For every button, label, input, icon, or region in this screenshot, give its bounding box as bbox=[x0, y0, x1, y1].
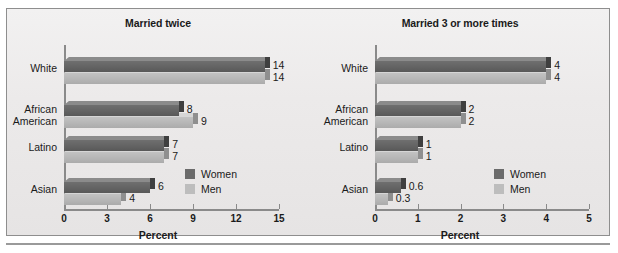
bar-top-face bbox=[64, 136, 169, 140]
x-axis-tick-label: 9 bbox=[181, 213, 205, 224]
chart-married-twice: Married twice 03691215PercentWhite1414Af… bbox=[7, 9, 309, 237]
legend-label-women: Women bbox=[510, 167, 546, 181]
x-axis-tick-label: 5 bbox=[577, 213, 601, 224]
x-axis-line bbox=[64, 209, 279, 211]
figure-root: Married twice 03691215PercentWhite1414Af… bbox=[0, 0, 618, 253]
bar-face bbox=[375, 105, 461, 116]
bar-top-face bbox=[375, 101, 466, 105]
x-axis-tick-label: 2 bbox=[449, 213, 473, 224]
bar-men bbox=[375, 194, 388, 205]
x-axis-tick bbox=[236, 204, 237, 209]
bar-value-label: 1 bbox=[426, 150, 432, 162]
bar-end-cap bbox=[418, 136, 423, 147]
bar-face bbox=[64, 61, 265, 72]
category-label: White bbox=[0, 62, 57, 74]
bar-value-label: 0.3 bbox=[396, 192, 411, 204]
bar-women bbox=[64, 140, 164, 151]
bar-value-label: 6 bbox=[158, 180, 164, 192]
bar-end-cap bbox=[461, 113, 466, 124]
bar-value-label: 0.6 bbox=[409, 180, 424, 192]
bar-face bbox=[375, 182, 401, 193]
bar-value-label: 14 bbox=[273, 71, 285, 83]
chart-panel: Married twice 03691215PercentWhite1414Af… bbox=[6, 8, 610, 236]
x-axis-tick bbox=[193, 204, 194, 209]
bar-women bbox=[375, 61, 546, 72]
bar-value-label: 4 bbox=[554, 71, 560, 83]
legend-label-men: Men bbox=[510, 182, 530, 196]
bar-face bbox=[375, 140, 418, 151]
plot-area: 03691215PercentWhite1414African American… bbox=[7, 9, 309, 237]
bottom-divider-rule bbox=[6, 243, 610, 245]
bar-value-label: 4 bbox=[554, 59, 560, 71]
bar-face bbox=[375, 61, 546, 72]
x-axis-tick-label: 3 bbox=[491, 213, 515, 224]
x-axis-tick-label: 0 bbox=[52, 213, 76, 224]
bar-men bbox=[64, 152, 164, 163]
bar-face bbox=[375, 194, 388, 205]
bar-face bbox=[375, 117, 461, 128]
bar-face bbox=[64, 152, 164, 163]
bar-face bbox=[64, 73, 265, 84]
category-label: White bbox=[298, 62, 368, 74]
category-label: Latino bbox=[298, 141, 368, 153]
category-label: Latino bbox=[0, 141, 57, 153]
chart-married-three-or-more: Married 3 or more times 012345PercentWhi… bbox=[309, 9, 611, 237]
bar-value-label: 1 bbox=[426, 138, 432, 150]
x-axis-title: Percent bbox=[309, 229, 611, 241]
x-axis-tick-label: 12 bbox=[224, 213, 248, 224]
bar-face bbox=[64, 194, 121, 205]
legend-label-men: Men bbox=[201, 182, 221, 196]
bar-end-cap bbox=[150, 178, 155, 189]
bar-end-cap bbox=[546, 69, 551, 80]
bar-value-label: 7 bbox=[172, 150, 178, 162]
legend-swatch-women bbox=[185, 169, 195, 179]
x-axis-tick bbox=[418, 204, 419, 209]
x-axis-tick-label: 4 bbox=[534, 213, 558, 224]
bar-top-face bbox=[375, 57, 551, 61]
category-label: Asian bbox=[0, 183, 57, 195]
x-axis-tick-label: 3 bbox=[95, 213, 119, 224]
category-label: African American bbox=[0, 103, 57, 127]
x-axis-tick-label: 1 bbox=[406, 213, 430, 224]
bar-end-cap bbox=[546, 57, 551, 68]
legend-swatch-men bbox=[494, 184, 504, 194]
bar-end-cap bbox=[193, 113, 198, 124]
bar-women bbox=[64, 61, 265, 72]
bar-face bbox=[64, 182, 150, 193]
x-axis-tick bbox=[279, 204, 280, 209]
bar-end-cap bbox=[461, 101, 466, 112]
bar-top-face bbox=[64, 101, 184, 105]
category-label: Asian bbox=[298, 183, 368, 195]
bar-face bbox=[375, 152, 418, 163]
bar-face bbox=[64, 105, 179, 116]
bar-value-label: 9 bbox=[201, 115, 207, 127]
bar-end-cap bbox=[418, 148, 423, 159]
bar-top-face bbox=[375, 136, 423, 140]
category-label: African American bbox=[298, 103, 368, 127]
bar-women bbox=[64, 182, 150, 193]
x-axis-tick bbox=[503, 204, 504, 209]
bar-women bbox=[64, 105, 179, 116]
x-axis-line bbox=[375, 209, 589, 211]
plot-area: 012345PercentWhite44African American22La… bbox=[309, 9, 611, 237]
legend-swatch-women bbox=[494, 169, 504, 179]
bar-women bbox=[375, 105, 461, 116]
x-axis-tick bbox=[461, 204, 462, 209]
bar-men bbox=[375, 152, 418, 163]
bar-end-cap bbox=[401, 178, 406, 189]
bar-end-cap bbox=[179, 101, 184, 112]
bar-value-label: 7 bbox=[172, 138, 178, 150]
x-axis-title: Percent bbox=[7, 229, 309, 241]
x-axis-tick bbox=[589, 204, 590, 209]
legend-swatch-men bbox=[185, 184, 195, 194]
x-axis-tick bbox=[150, 204, 151, 209]
bar-top-face bbox=[64, 178, 155, 182]
legend-label-women: Women bbox=[201, 167, 237, 181]
bar-face bbox=[375, 73, 546, 84]
bar-value-label: 2 bbox=[469, 115, 475, 127]
x-axis-tick bbox=[546, 204, 547, 209]
bar-men bbox=[64, 73, 265, 84]
bar-women bbox=[375, 182, 401, 193]
bar-men bbox=[64, 194, 121, 205]
x-axis-tick-label: 15 bbox=[267, 213, 291, 224]
